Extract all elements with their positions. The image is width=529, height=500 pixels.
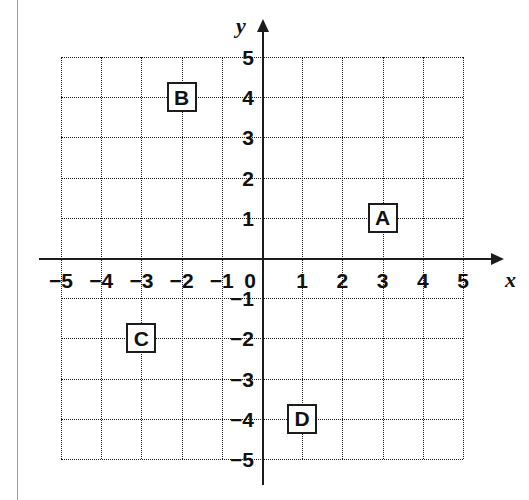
- x-tick-label-1: 1: [296, 270, 308, 291]
- y-tick-label-neg5: −5: [204, 449, 254, 470]
- y-tick-label-2: 2: [204, 167, 254, 188]
- x-tick-label-2: 2: [337, 270, 349, 291]
- x-tick-label-4: 4: [417, 270, 429, 291]
- plotted-point-d[interactable]: D: [287, 404, 317, 434]
- plotted-point-c[interactable]: C: [126, 323, 156, 353]
- y-tick-label-3: 3: [204, 127, 254, 148]
- plotted-point-b[interactable]: B: [167, 82, 197, 112]
- y-tick-label-neg2: −2: [204, 328, 254, 349]
- y-axis: [262, 31, 264, 485]
- plotted-point-a[interactable]: A: [368, 203, 398, 233]
- x-tick-label-3: 3: [377, 270, 389, 291]
- x-tick-label-5: 5: [457, 270, 469, 291]
- x-axis-name-label: x: [505, 269, 516, 291]
- x-axis: [39, 258, 491, 260]
- x-tick-label-neg4: −4: [89, 270, 113, 291]
- x-tick-label-neg5: −5: [49, 270, 73, 291]
- coordinate-plane: −5−4−3−2−101234554321−1−2−3−4−5xyABCD: [0, 0, 529, 500]
- y-tick-label-neg4: −4: [204, 408, 254, 429]
- y-tick-label-1: 1: [204, 207, 254, 228]
- y-tick-label-neg3: −3: [204, 368, 254, 389]
- x-tick-label-neg3: −3: [129, 270, 153, 291]
- y-tick-label-neg1: −1: [204, 288, 254, 309]
- scan-line-artifact: [17, 0, 18, 500]
- y-tick-label-5: 5: [204, 47, 254, 68]
- y-axis-arrowhead: [257, 19, 269, 32]
- y-tick-label-4: 4: [204, 87, 254, 108]
- x-axis-arrowhead: [491, 253, 504, 265]
- x-tick-label-neg2: −2: [170, 270, 194, 291]
- y-axis-name-label: y: [236, 15, 246, 37]
